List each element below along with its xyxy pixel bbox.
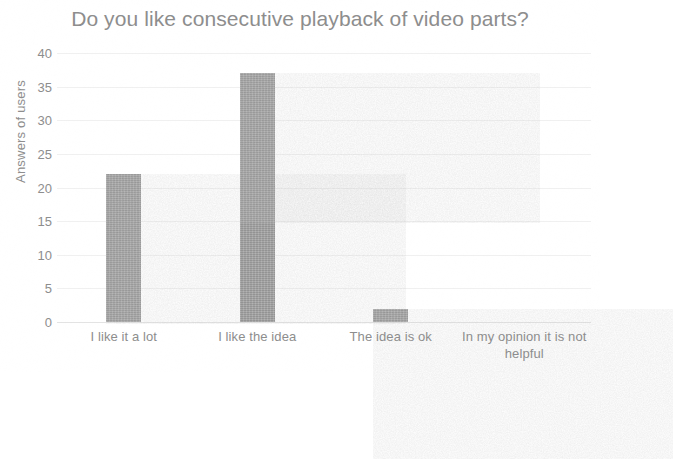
x-tick-label-3: In my opinion it is not helpful (458, 328, 592, 362)
bar-2[interactable] (373, 309, 408, 322)
y-tick-label-20: 20 (6, 180, 52, 195)
x-tick-label-2: The idea is ok (324, 328, 458, 345)
y-tick-label-0: 0 (6, 315, 52, 330)
y-tick-label-30: 30 (6, 113, 52, 128)
plot-area (57, 53, 591, 322)
chart-title: Do you like consecutive playback of vide… (0, 6, 600, 32)
y-tick-label-15: 15 (6, 214, 52, 229)
x-tick-label-0: I like it a lot (57, 328, 191, 345)
y-tick-label-25: 25 (6, 146, 52, 161)
y-tick-label-40: 40 (6, 46, 52, 61)
y-tick-label-10: 10 (6, 247, 52, 262)
y-tick-label-35: 35 (6, 79, 52, 94)
x-tick-label-1: I like the idea (191, 328, 325, 345)
bar-0[interactable] (106, 174, 141, 322)
bar-1[interactable] (240, 73, 275, 322)
gridline-40 (57, 53, 591, 54)
y-tick-label-5: 5 (6, 281, 52, 296)
x-axis-tick-labels: I like it a lotI like the ideaThe idea i… (57, 328, 591, 372)
y-axis-tick-labels: 0510152025303540 (0, 53, 52, 322)
